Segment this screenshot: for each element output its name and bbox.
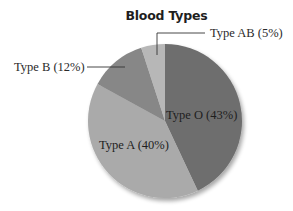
type-b-label: Type B (12%) — [14, 60, 85, 74]
pie-chart: Blood Types Type AB (5%) Type B (12%) Ty… — [0, 0, 293, 211]
type-a-label: Type A (40%) — [99, 138, 169, 152]
type-o-label: Type O (43%) — [166, 108, 237, 122]
pie-plot: Type AB (5%) Type B (12%) Type O (43%) T… — [0, 0, 293, 211]
type-ab-label: Type AB (5%) — [210, 26, 283, 40]
